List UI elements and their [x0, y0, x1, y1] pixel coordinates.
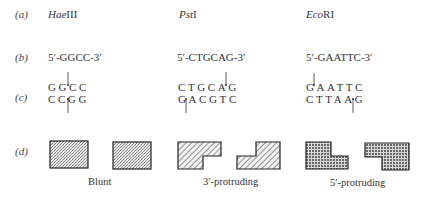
3prime-fragment-left	[178, 142, 221, 169]
diagram-graphics	[0, 0, 422, 203]
caption-5prime-protruding: 5′-protruding	[330, 177, 385, 188]
3prime-fragment-right	[237, 142, 280, 169]
caption-blunt: Blunt	[88, 176, 111, 187]
cut-arrow-ecori-bottom	[352, 98, 354, 113]
cut-arrow-psti-top	[225, 72, 227, 86]
blunt-fragment-right	[113, 142, 151, 169]
cut-arrow-ecori-top	[313, 73, 315, 86]
cut-arrow-haeiii-bottom	[67, 98, 69, 113]
cut-arrow-psti-bottom	[185, 98, 187, 113]
blunt-fragment-left	[50, 141, 88, 168]
cut-arrow-haeiii-top	[67, 72, 69, 86]
caption-3prime-protruding: 3′-protruding	[203, 176, 258, 187]
5prime-fragment-left	[306, 142, 348, 169]
5prime-fragment-right	[365, 143, 409, 170]
